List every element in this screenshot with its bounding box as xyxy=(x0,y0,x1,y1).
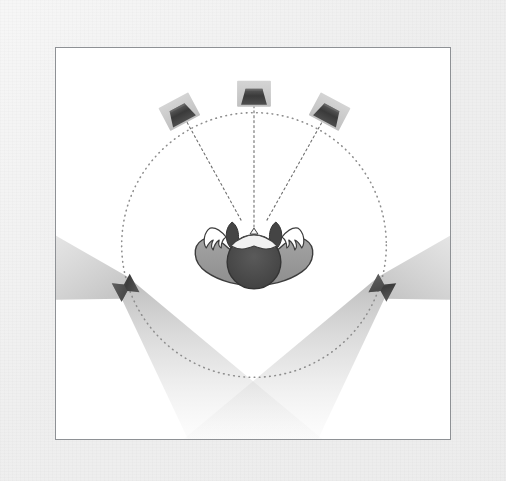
diagram-plate xyxy=(55,47,451,440)
speaker-center[interactable] xyxy=(237,81,271,107)
speaker-front-left[interactable] xyxy=(158,92,200,131)
listener-figure xyxy=(195,222,313,289)
beam-surround-right-outward xyxy=(378,167,450,301)
beam-surround-left-outward xyxy=(56,167,128,301)
speaker-front-right[interactable] xyxy=(309,92,351,131)
diagram-canvas: 5.1 Surround Sound Speaker Placement Lis… xyxy=(0,0,506,481)
sight-line-front-right xyxy=(267,116,326,220)
sight-line-front-left xyxy=(183,116,241,220)
speaker-placement-illustration xyxy=(56,48,450,439)
listener-nose xyxy=(250,228,258,234)
